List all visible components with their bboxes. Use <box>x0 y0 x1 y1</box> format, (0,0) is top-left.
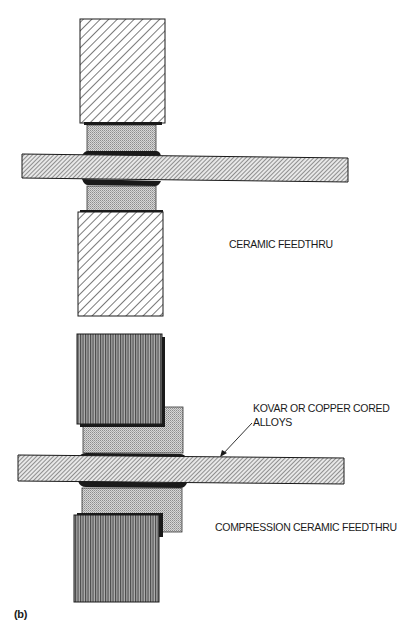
pin <box>18 455 344 484</box>
lower-ceramic-insulator <box>87 186 156 211</box>
callout-label-line2: ALLOYS <box>253 416 292 429</box>
upper-housing <box>77 334 162 424</box>
feedthru-diagram <box>0 0 417 633</box>
upper-ceramic-insulator <box>87 125 156 153</box>
callout-leader-line <box>222 423 252 455</box>
callout-label-line1: KOVAR OR COPPER CORED <box>253 402 389 415</box>
figure-label: (b) <box>14 608 27 621</box>
ceramic-feedthru-caption: CERAMIC FEEDTHRU <box>229 238 333 251</box>
lower-housing <box>78 212 163 316</box>
ceramic-feedthru-figure <box>22 19 348 316</box>
compression-feedthru-caption: COMPRESSION CERAMIC FEEDTHRU <box>215 521 397 534</box>
upper-housing <box>80 19 165 123</box>
upper-housing-braze <box>84 122 162 125</box>
lower-housing <box>74 515 159 602</box>
pin <box>22 154 348 182</box>
compression-feedthru-figure <box>18 334 344 602</box>
